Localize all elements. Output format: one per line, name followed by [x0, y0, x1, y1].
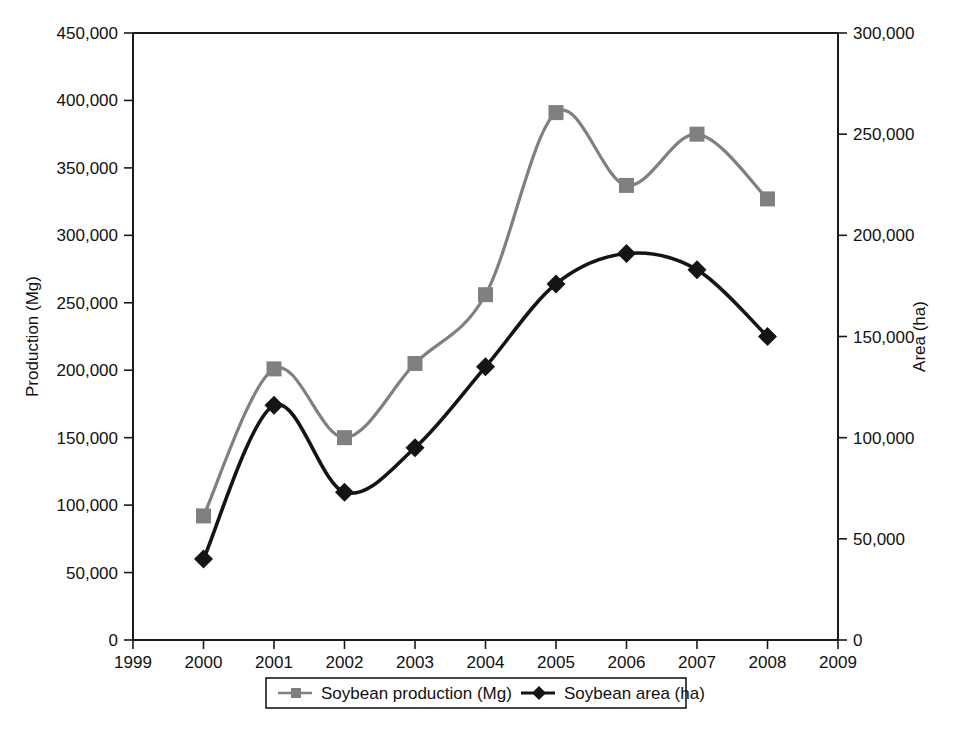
x-axis-tick-label: 2007: [678, 653, 716, 672]
right-axis-tick-label: 100,000: [853, 429, 914, 448]
left-axis-tick-label: 100,000: [57, 496, 118, 515]
square-marker-icon: [291, 688, 301, 698]
data-point-diamond: [617, 244, 636, 263]
data-point-square: [619, 178, 634, 193]
right-axis-tick-label: 200,000: [853, 226, 914, 245]
x-axis-tick-label: 2001: [255, 653, 293, 672]
x-axis-tick-label: 2005: [537, 653, 575, 672]
right-axis-tick-label: 50,000: [853, 530, 905, 549]
x-axis-tick-label: 2006: [608, 653, 646, 672]
data-point-square: [337, 430, 352, 445]
right-axis-tick-label: 0: [853, 631, 862, 650]
data-point-square: [408, 356, 423, 371]
left-axis-tick-label: 200,000: [57, 361, 118, 380]
left-axis-tick-label: 50,000: [66, 564, 118, 583]
x-axis-tick-label: 2002: [326, 653, 364, 672]
data-point-square: [760, 191, 775, 206]
right-axis-title: Area (ha): [910, 301, 929, 372]
data-point-square: [690, 127, 705, 142]
x-axis-tick-label: 1999: [114, 653, 152, 672]
soybean-production-area-chart: 050,000100,000150,000200,000250,000300,0…: [0, 0, 953, 736]
x-axis-tick-label: 2003: [396, 653, 434, 672]
right-axis-tick-label: 250,000: [853, 125, 914, 144]
x-axis-tick-label: 2008: [749, 653, 787, 672]
data-point-square: [267, 361, 282, 376]
left-axis-tick-label: 300,000: [57, 226, 118, 245]
left-axis-title: Production (Mg): [23, 276, 42, 397]
series-line: [204, 110, 768, 516]
chart-legend: Soybean production (Mg)Soybean area (ha): [266, 678, 705, 708]
left-axis-tick-label: 350,000: [57, 159, 118, 178]
x-axis-tick-label: 2009: [819, 653, 857, 672]
left-axis-tick-label: 400,000: [57, 91, 118, 110]
right-axis-tick-label: 150,000: [853, 328, 914, 347]
left-axis-tick-label: 450,000: [57, 24, 118, 43]
x-axis-tick-label: 2000: [185, 653, 223, 672]
chart-canvas: 050,000100,000150,000200,000250,000300,0…: [0, 0, 953, 736]
data-point-diamond: [335, 483, 354, 502]
data-point-square: [478, 287, 493, 302]
series-production: [196, 105, 775, 523]
left-axis-tick-label: 150,000: [57, 429, 118, 448]
data-point-square: [549, 105, 564, 120]
data-point-diamond: [194, 550, 213, 569]
left-axis-tick-label: 0: [109, 631, 118, 650]
right-axis-tick-label: 300,000: [853, 24, 914, 43]
x-axis-tick-label: 2004: [467, 653, 505, 672]
legend-label-area: Soybean area (ha): [564, 684, 705, 703]
legend-label-production: Soybean production (Mg): [321, 684, 512, 703]
data-point-square: [196, 508, 211, 523]
left-axis-tick-label: 250,000: [57, 294, 118, 313]
